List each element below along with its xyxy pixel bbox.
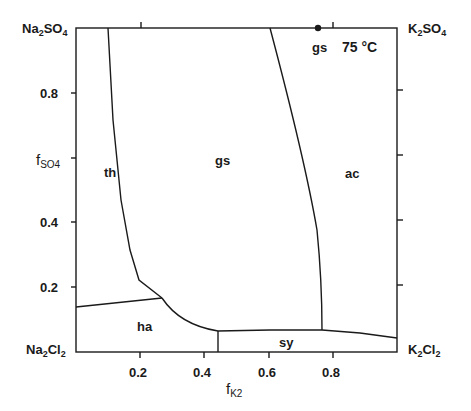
region-label-ac: ac (345, 167, 359, 180)
gs-composition-point (315, 25, 321, 31)
region-label-gs-top: gs (312, 41, 327, 54)
y-tick-label-0.2: 0.2 (40, 281, 58, 294)
region-label-th: th (104, 166, 116, 179)
plot-frame (76, 28, 397, 352)
x-axis-title: fK2 (226, 381, 242, 399)
temperature-label: 75 °C (342, 40, 377, 54)
boundary-th-ha (76, 298, 162, 307)
region-label-sy: sy (279, 336, 293, 349)
corner-label-na2cl2: Na2Cl2 (26, 343, 66, 359)
phase-diagram-plot (0, 0, 471, 411)
y-tick-label-0.4: 0.4 (40, 216, 58, 229)
corner-label-k2cl2: K2Cl2 (408, 343, 440, 359)
corner-label-k2so4: K2SO4 (408, 22, 446, 38)
x-tick-label-0.2: 0.2 (129, 366, 147, 379)
boundary-gs-ac (270, 28, 322, 330)
x-tick-label-0.8: 0.8 (322, 366, 340, 379)
x-tick-label-0.6: 0.6 (258, 366, 276, 379)
region-label-gs: gs (215, 154, 230, 167)
x-tick-label-0.4: 0.4 (193, 366, 211, 379)
boundary-ac-sy (322, 330, 397, 338)
boundary-gs-sy (218, 330, 322, 331)
boundary-ha-gs (162, 298, 218, 331)
y-axis-title: fSO4 (36, 152, 60, 170)
y-tick-label-0.8: 0.8 (40, 87, 58, 100)
corner-label-na2so4: Na2SO4 (22, 22, 67, 38)
region-label-ha: ha (137, 320, 152, 333)
boundary-th-gs (108, 28, 162, 298)
